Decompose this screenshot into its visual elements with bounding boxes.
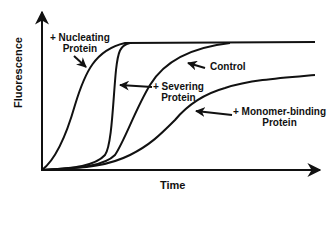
- monomer-arrow: [196, 111, 232, 115]
- control-label-text: Control: [210, 61, 246, 72]
- monomer-binding-protein-label: + Monomer-binding Protein: [233, 106, 326, 128]
- monomer-label-line1: + Monomer-binding: [233, 106, 326, 117]
- severing-label-line2: Protein: [153, 92, 204, 103]
- control-arrow: [188, 63, 205, 68]
- nucleating-label-line1: + Nucleating: [50, 32, 110, 43]
- nucleating-label-line2: Protein: [50, 43, 110, 54]
- y-axis-label: Fluorescence: [12, 37, 24, 108]
- monomer-label-line2: Protein: [233, 117, 326, 128]
- severing-label-line1: + Severing: [153, 81, 204, 92]
- severing-arrow: [120, 85, 152, 87]
- nucleating-protein-label: + Nucleating Protein: [50, 32, 110, 54]
- nucleating-arrow: [74, 56, 86, 67]
- x-axis-label: Time: [160, 179, 185, 191]
- control-label: Control: [210, 61, 246, 72]
- severing-protein-label: + Severing Protein: [153, 81, 204, 103]
